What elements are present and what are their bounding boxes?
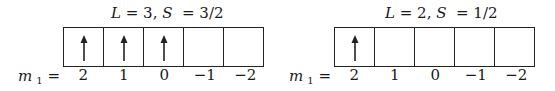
l-value: 3 <box>143 4 153 22</box>
s-symbol: S <box>162 4 172 22</box>
term-title: L = 2, S = 1/2 <box>385 4 498 22</box>
ml-value: −2 <box>496 66 537 84</box>
orbital-cell <box>495 28 534 66</box>
ml-value: −1 <box>185 66 226 84</box>
spin-up-arrow-icon <box>119 35 129 61</box>
orbital-cell <box>64 28 104 66</box>
ml-value: 0 <box>415 66 456 84</box>
l-value: 2 <box>417 4 427 22</box>
orbital-cell <box>375 28 415 66</box>
ml-value: 2 <box>63 66 104 84</box>
l-symbol: L <box>111 4 121 22</box>
diagram-left: L = 3, S = 3/2 m1 = 2 1 0 −1 −2 <box>0 0 280 91</box>
orbital-cell <box>104 28 144 66</box>
spin-up-arrow-icon <box>79 35 89 61</box>
ml-value: −2 <box>225 66 266 84</box>
ml-label: m1 = <box>289 67 331 86</box>
orbital-cell <box>144 28 184 66</box>
ml-label: m1 = <box>18 67 60 86</box>
s-symbol: S <box>436 4 446 22</box>
l-symbol: L <box>385 4 395 22</box>
spin-up-arrow-icon <box>159 35 169 61</box>
ml-values: 2 1 0 −1 −2 <box>334 66 537 84</box>
spin-up-arrow-icon <box>350 35 360 61</box>
diagram-right: L = 2, S = 1/2 m1 = 2 1 0 −1 −2 <box>275 0 555 91</box>
orbital-cell <box>224 28 263 66</box>
ml-value: 1 <box>375 66 416 84</box>
orbital-cell <box>415 28 455 66</box>
s-value: 3/2 <box>199 4 223 22</box>
term-title: L = 3, S = 3/2 <box>111 4 224 22</box>
s-value: 1/2 <box>473 4 497 22</box>
ml-value: 1 <box>104 66 145 84</box>
orbital-boxes <box>334 27 535 67</box>
orbital-cell <box>455 28 495 66</box>
orbital-cell <box>184 28 224 66</box>
orbital-boxes <box>63 27 264 67</box>
ml-values: 2 1 0 −1 −2 <box>63 66 266 84</box>
ml-value: −1 <box>456 66 497 84</box>
ml-value: 2 <box>334 66 375 84</box>
orbital-cell <box>335 28 375 66</box>
ml-value: 0 <box>144 66 185 84</box>
